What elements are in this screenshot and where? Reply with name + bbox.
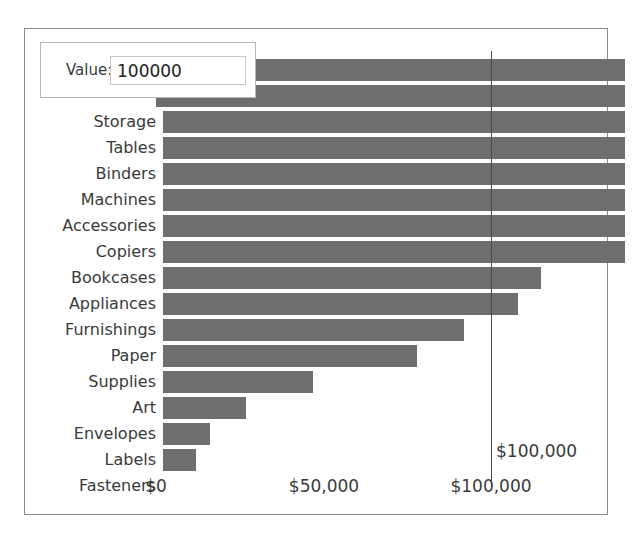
bar-row[interactable]: Paper: [25, 345, 417, 367]
bar[interactable]: [156, 319, 464, 341]
value-field-label: Value:: [66, 61, 112, 79]
bar-row[interactable]: Art: [25, 397, 246, 419]
category-label: Storage: [25, 111, 163, 133]
bar[interactable]: [156, 189, 625, 211]
bar-row[interactable]: Fasteners: [25, 475, 163, 497]
bar[interactable]: [156, 371, 313, 393]
bar[interactable]: [156, 345, 417, 367]
bar[interactable]: [156, 423, 210, 445]
category-label: Copiers: [25, 241, 163, 263]
bar-row[interactable]: Appliances: [25, 293, 518, 315]
bar[interactable]: [156, 397, 246, 419]
bar-row[interactable]: Envelopes: [25, 423, 210, 445]
bar-row[interactable]: Storage: [25, 111, 625, 133]
bar[interactable]: [156, 163, 625, 185]
bar-chart-plot-area: PhonesChairsStorageTablesBindersMachines…: [25, 29, 609, 516]
bar[interactable]: [156, 111, 625, 133]
category-label: Envelopes: [25, 423, 163, 445]
bar[interactable]: [156, 137, 625, 159]
bar[interactable]: [156, 267, 541, 289]
bar-row[interactable]: Supplies: [25, 371, 313, 393]
reference-line-label: $100,000: [496, 441, 577, 461]
x-axis-tick-label: $0: [145, 476, 167, 496]
chart-screenshot: PhonesChairsStorageTablesBindersMachines…: [0, 0, 632, 542]
reference-line[interactable]: [491, 51, 492, 486]
category-label: Appliances: [25, 293, 163, 315]
bar[interactable]: [156, 215, 625, 237]
bar-row[interactable]: Labels: [25, 449, 196, 471]
category-label: Labels: [25, 449, 163, 471]
chart-panel: PhonesChairsStorageTablesBindersMachines…: [24, 28, 608, 515]
category-label: Paper: [25, 345, 163, 367]
category-label: Accessories: [25, 215, 163, 237]
category-label: Art: [25, 397, 163, 419]
value-input[interactable]: [110, 56, 246, 85]
bar[interactable]: [156, 241, 625, 263]
bar-row[interactable]: Copiers: [25, 241, 625, 263]
x-axis-tick-label: $50,000: [289, 476, 359, 496]
category-label: Tables: [25, 137, 163, 159]
bar-row[interactable]: Binders: [25, 163, 625, 185]
category-label: Binders: [25, 163, 163, 185]
category-label: Supplies: [25, 371, 163, 393]
bar-row[interactable]: Tables: [25, 137, 625, 159]
bar-row[interactable]: Accessories: [25, 215, 625, 237]
category-label: Furnishings: [25, 319, 163, 341]
category-label: Machines: [25, 189, 163, 211]
bar-row[interactable]: Bookcases: [25, 267, 541, 289]
bar[interactable]: [156, 293, 518, 315]
value-parameter-control[interactable]: Value:: [40, 42, 256, 98]
category-label: Bookcases: [25, 267, 163, 289]
bar-row[interactable]: Furnishings: [25, 319, 464, 341]
x-axis-tick-label: $100,000: [450, 476, 531, 496]
category-label: Fasteners: [25, 475, 163, 497]
bar-row[interactable]: Machines: [25, 189, 625, 211]
